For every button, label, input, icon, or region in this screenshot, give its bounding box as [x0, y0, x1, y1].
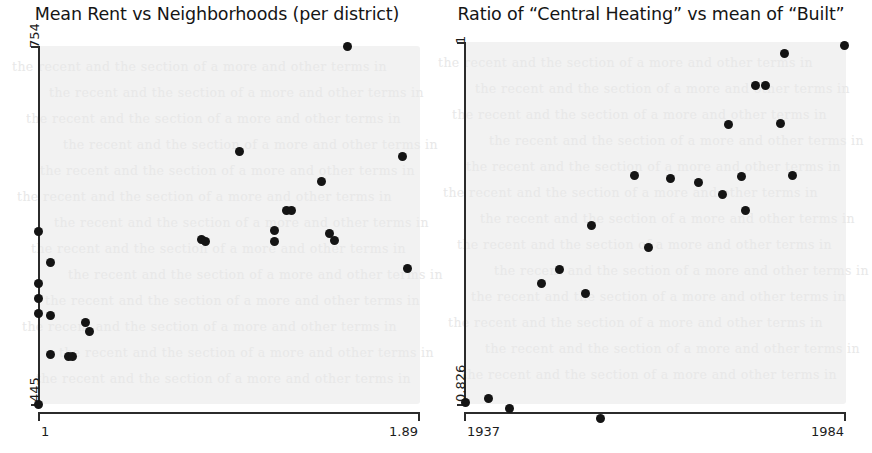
scatter-point: [505, 404, 514, 413]
scatter-point: [343, 42, 352, 51]
x-axis-max-label: 1984: [811, 424, 844, 439]
scatter-point: [34, 227, 43, 236]
scatter-point: [85, 327, 94, 336]
x-axis-min-label: 1937: [467, 424, 500, 439]
scatter-point: [596, 414, 605, 423]
y-axis-min-label: 445: [27, 377, 42, 402]
scatter-point: [403, 264, 412, 273]
chart-panel-right: Ratio of “Central Heating” vs mean of “B…: [434, 0, 868, 453]
scatter-point: [68, 352, 77, 361]
plot-background: [38, 46, 420, 404]
y-axis-line: [464, 42, 466, 404]
plot-area-right: the recent and the section of a more and…: [434, 0, 868, 453]
scatter-point: [666, 174, 675, 183]
scatter-point: [34, 400, 43, 409]
x-axis-min-label: 1: [41, 424, 49, 439]
scatter-point: [330, 236, 339, 245]
plot-background: [464, 42, 846, 404]
x-axis-line: [38, 412, 420, 414]
scatter-point: [270, 226, 279, 235]
x-axis-max-label: 1.89: [389, 424, 418, 439]
y-axis-min-label: 0.826: [453, 365, 468, 402]
scatter-point: [34, 309, 43, 318]
scatter-point: [537, 279, 546, 288]
plot-area-left: the recent and the section of a more and…: [0, 0, 434, 453]
x-axis-line: [464, 412, 846, 414]
scatter-point: [287, 206, 296, 215]
x-tick-max: [844, 412, 846, 421]
y-axis-max-label: 1: [453, 36, 468, 44]
scatter-point: [587, 221, 596, 230]
scatter-point: [398, 152, 407, 161]
scatter-point: [741, 206, 750, 215]
scatter-point: [34, 279, 43, 288]
y-axis-max-label: 754: [27, 23, 42, 48]
scatter-point: [840, 41, 849, 50]
scatter-point: [270, 237, 279, 246]
y-axis-line: [38, 46, 40, 404]
x-tick-min: [464, 412, 466, 421]
scatter-point: [776, 119, 785, 128]
scatter-point: [34, 294, 43, 303]
x-tick-max: [418, 412, 420, 421]
scatter-point: [630, 171, 639, 180]
x-tick-min: [38, 412, 40, 421]
scatter-point: [461, 398, 470, 407]
scatter-point: [780, 49, 789, 58]
chart-panel-left: Mean Rent vs Neighborhoods (per district…: [0, 0, 434, 453]
scatter-point: [788, 171, 797, 180]
scatter-point: [317, 177, 326, 186]
